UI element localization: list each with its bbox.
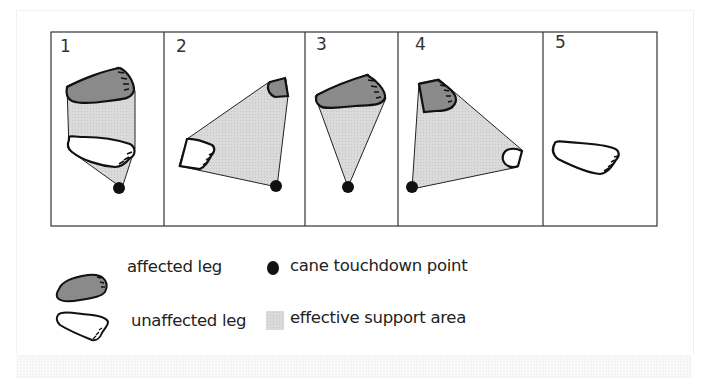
- unaffected-foot-icon: [553, 141, 619, 174]
- legend-unaffected-label: unaffected leg: [131, 311, 246, 330]
- panel-number-5: 5: [555, 32, 566, 52]
- panel-2-content: [179, 78, 288, 192]
- panel-1-content: [67, 67, 135, 194]
- legend-cane-point-icon: [267, 261, 279, 275]
- legend-cane-label: cane touchdown point: [290, 256, 467, 275]
- affected-foot-icon: [268, 78, 288, 97]
- panel-3-content: [315, 74, 386, 193]
- legend-support-label: effective support area: [290, 308, 466, 327]
- panel-number-1: 1: [60, 36, 71, 56]
- cane-point-icon: [113, 182, 125, 194]
- legend-unaffected-foot-icon: [57, 313, 108, 341]
- panel-number-4: 4: [415, 34, 426, 54]
- legend-affected-foot-icon: [57, 275, 107, 302]
- legend-support-area-icon: [266, 311, 284, 330]
- panel-number-3: 3: [316, 34, 327, 54]
- unaffected-foot-icon: [503, 149, 522, 167]
- cane-point-icon: [342, 181, 354, 193]
- panel-4-content: [406, 79, 522, 193]
- cane-point-icon: [270, 180, 282, 192]
- legend-affected-label: affected leg: [127, 257, 222, 276]
- panel-5-content: [553, 141, 619, 174]
- panel-number-2: 2: [176, 36, 187, 56]
- cane-point-icon: [406, 181, 418, 193]
